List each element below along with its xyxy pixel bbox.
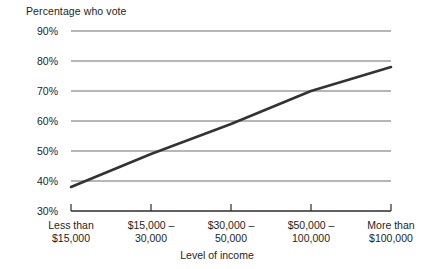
gridlines — [71, 31, 391, 181]
data-series-line — [71, 67, 391, 187]
x-axis-label-4-line2: $100,000 — [333, 232, 434, 245]
x-axis-label-4: More than $100,000 — [333, 219, 434, 245]
x-axis-ticks — [71, 204, 391, 211]
x-axis-title: Level of income — [0, 249, 434, 261]
line-chart: Percentage who vote 90% 80% 70% 60% 50% … — [0, 0, 434, 269]
x-axis-label-4-line1: More than — [333, 219, 434, 232]
